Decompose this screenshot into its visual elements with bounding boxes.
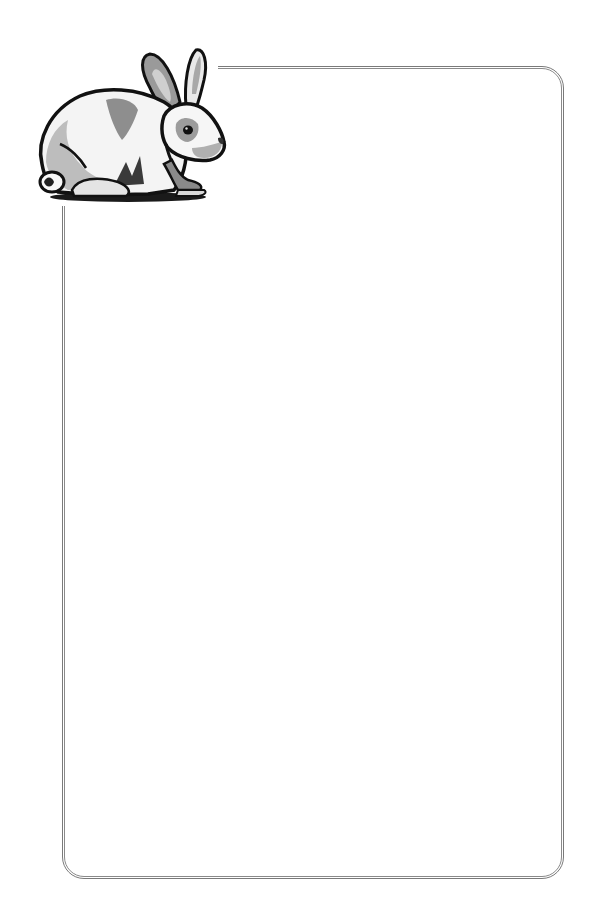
rabbit-icon [28,44,233,206]
writing-area [70,215,556,870]
